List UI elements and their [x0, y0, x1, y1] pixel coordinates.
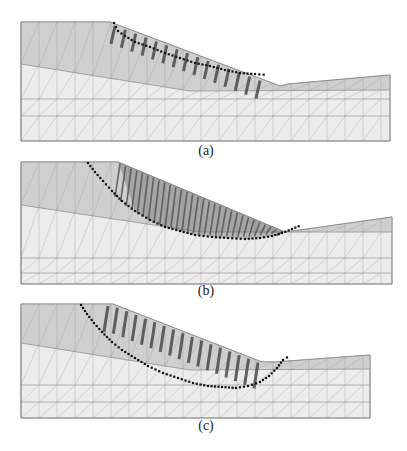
panel-label-a: (a) [176, 143, 236, 159]
slope-failure-figure [0, 0, 407, 451]
panel-a [21, 22, 390, 141]
panel-c [21, 304, 370, 418]
panel-b [21, 162, 392, 284]
panel-label-c: (c) [176, 418, 236, 434]
panel-label-b: (b) [176, 283, 236, 299]
